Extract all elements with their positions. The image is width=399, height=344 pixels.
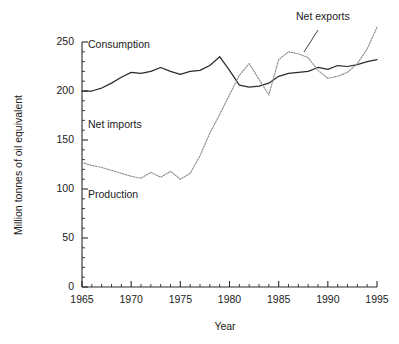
chart-figure: Million tonnes of oil equivalent Year 05… <box>0 0 399 344</box>
x-tick-label: 1970 <box>119 293 143 305</box>
x-tick-label: 1980 <box>218 293 242 305</box>
x-tick-label: 1975 <box>169 293 193 305</box>
y-tick-label: 50 <box>62 231 74 243</box>
x-axis-title: Year <box>214 320 236 332</box>
y-tick-label: 250 <box>56 35 74 47</box>
y-axis-tick-labels: 050100150200250 <box>56 35 74 292</box>
x-axis-title-text: Year <box>214 320 236 332</box>
y-axis-title-text: Million tonnes of oil equivalent <box>12 95 24 235</box>
data-series-layer <box>82 27 377 179</box>
series-line-consumption <box>82 57 377 91</box>
x-axis-ticks <box>82 281 377 287</box>
x-tick-label: 1995 <box>365 293 389 305</box>
energy-line-chart: Million tonnes of oil equivalent Year 05… <box>0 0 399 344</box>
net-exports-leader-line <box>304 30 318 52</box>
y-tick-label: 150 <box>56 133 74 145</box>
y-axis-title: Million tonnes of oil equivalent <box>12 95 24 235</box>
x-tick-label: 1965 <box>70 293 94 305</box>
y-tick-label: 0 <box>68 280 74 292</box>
y-tick-label: 200 <box>56 84 74 96</box>
production-label: Production <box>88 188 138 200</box>
x-tick-label: 1985 <box>267 293 291 305</box>
net-exports-label: Net exports <box>296 10 350 22</box>
x-tick-label: 1990 <box>316 293 340 305</box>
series-line-production <box>82 27 377 179</box>
consumption-label: Consumption <box>88 38 150 50</box>
x-axis-tick-labels: 1965197019751980198519901995 <box>70 293 389 305</box>
net-imports-label: Net imports <box>88 118 142 130</box>
annotation-layer: ConsumptionNet importsProductionNet expo… <box>88 10 350 200</box>
leader-line-layer <box>304 30 318 52</box>
axes <box>82 42 377 287</box>
y-tick-label: 100 <box>56 182 74 194</box>
